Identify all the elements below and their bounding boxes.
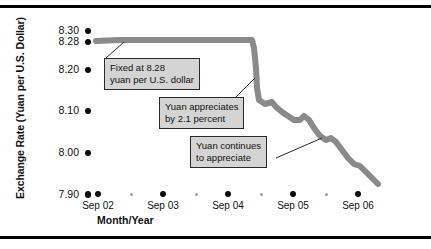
callout-line-2: yuan per U.S. dollar — [110, 74, 194, 86]
callout-line-1: Yuan appreciates — [165, 101, 238, 113]
fixed-rate-callout: Fixed at 8.28 yuan per U.S. dollar — [104, 58, 200, 90]
callout-line-2: by 2.1 percent — [165, 113, 238, 125]
leader-line-continues — [276, 138, 322, 158]
callout-line-1: Fixed at 8.28 — [110, 62, 194, 74]
appreciation-callout: Yuan appreciates by 2.1 percent — [159, 97, 244, 129]
figure-container: Exchange Rate (Yuan per U.S. Dollar) 8.3… — [0, 0, 431, 249]
leader-line-fixed — [106, 42, 124, 58]
callout-line-1: Yuan continues — [196, 140, 261, 152]
callout-line-2: to appreciate — [196, 152, 261, 164]
bottom-rule — [0, 236, 431, 239]
plot-area: Exchange Rate (Yuan per U.S. Dollar) 8.3… — [0, 8, 431, 236]
continued-appreciation-callout: Yuan continues to appreciate — [190, 136, 267, 168]
